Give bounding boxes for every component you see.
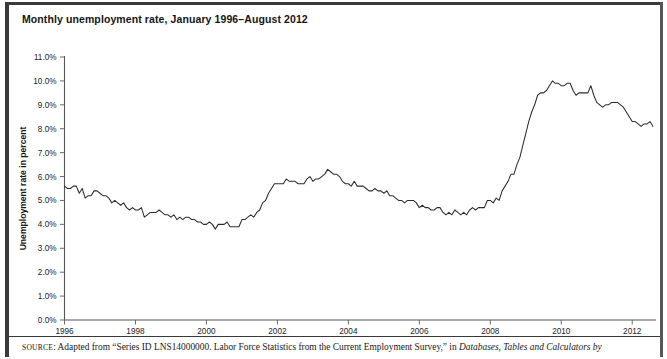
source-italic-title: Databases, Tables and Calculators by	[459, 342, 602, 352]
y-axis-title: Unemployment rate in percent	[18, 127, 28, 251]
y-axis-tick-label: 0.0%	[38, 316, 57, 325]
data-series-line	[65, 81, 653, 229]
x-axis-tick-label: 1998	[126, 327, 145, 336]
y-axis-tick-label: 10.0%	[33, 77, 56, 86]
y-axis-tick-label: 3.0%	[38, 244, 57, 253]
y-axis-tick-label: 4.0%	[38, 220, 57, 229]
frame-bottom-rule	[9, 336, 660, 337]
x-axis-tick-label: 2006	[410, 327, 429, 336]
y-axis-tick-label: 11.0%	[34, 53, 57, 62]
source-body-text: : Adapted from “Series ID LNS14000000. L…	[53, 342, 459, 352]
x-axis-tick-label: 2012	[623, 327, 642, 336]
y-axis-tick-label: 6.0%	[38, 173, 57, 182]
source-note: SOURCE: Adapted from “Series ID LNS14000…	[22, 342, 652, 353]
y-axis-tick-label: 5.0%	[38, 196, 57, 205]
x-axis-tick-label: 1996	[55, 327, 74, 336]
plot-area: 0.0%1.0%2.0%3.0%4.0%5.0%6.0%7.0%8.0%9.0%…	[0, 0, 667, 336]
y-axis-tick-label: 8.0%	[38, 125, 57, 134]
source-label: SOURCE	[22, 343, 53, 352]
x-axis-tick-label: 2000	[197, 327, 216, 336]
figure-container: Monthly unemployment rate, January 1996–…	[0, 0, 667, 359]
line-chart-svg: 0.0%1.0%2.0%3.0%4.0%5.0%6.0%7.0%8.0%9.0%…	[0, 0, 667, 336]
y-axis-tick-label: 1.0%	[38, 292, 57, 301]
x-axis-tick-label: 2004	[339, 327, 358, 336]
x-axis-tick-label: 2002	[268, 327, 287, 336]
x-axis-tick-label: 2010	[552, 327, 571, 336]
y-axis-tick-label: 9.0%	[38, 101, 57, 110]
y-axis-tick-label: 2.0%	[38, 268, 57, 277]
y-axis-tick-label: 7.0%	[38, 149, 57, 158]
x-axis-tick-label: 2008	[481, 327, 500, 336]
